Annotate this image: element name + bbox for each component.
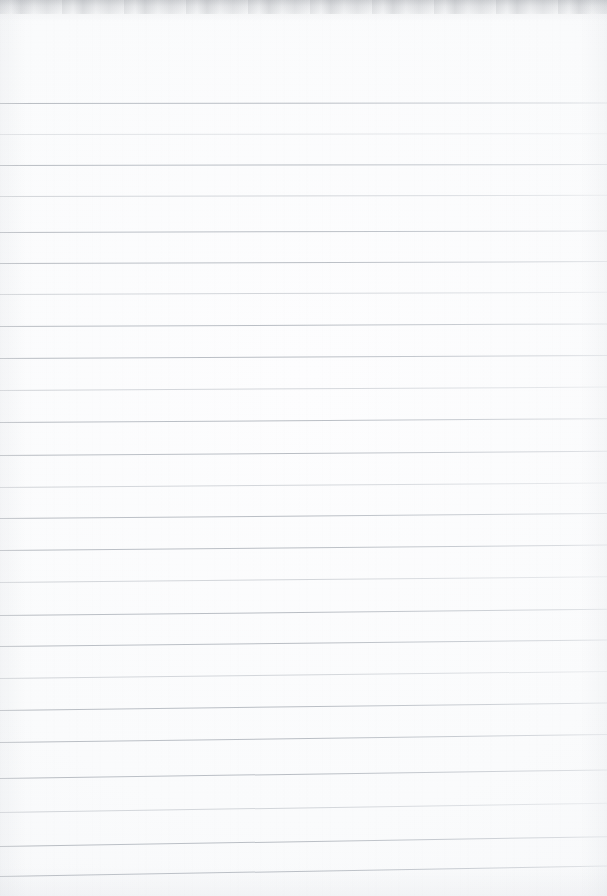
page-body-text (0, 0, 607, 896)
notebook-page (0, 0, 607, 896)
